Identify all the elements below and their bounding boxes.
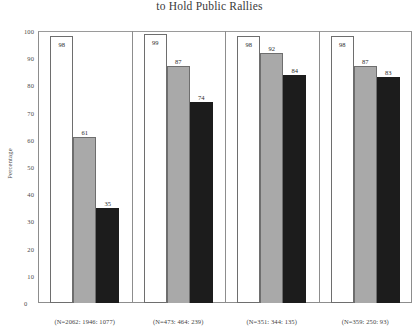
group-label: (N=359: 250: 93) bbox=[319, 318, 413, 325]
y-axis-tick-30: 30 bbox=[4, 218, 34, 225]
y-axis-zero-label: 0 bbox=[24, 300, 27, 307]
y-axis-tick-10: 10 bbox=[4, 272, 34, 279]
y-axis-tick-70: 70 bbox=[4, 109, 34, 116]
bar-value-label: 87 bbox=[355, 58, 376, 65]
y-axis-tick-20: 20 bbox=[4, 245, 34, 252]
bar-white: 99 bbox=[144, 34, 167, 303]
bar-white: 98 bbox=[331, 36, 354, 303]
bar-black: 84 bbox=[283, 75, 306, 303]
bar-group: 998774 bbox=[132, 31, 226, 303]
bar-value-label: 87 bbox=[168, 58, 189, 65]
bar-black: 35 bbox=[96, 208, 119, 303]
bar-value-label: 99 bbox=[145, 39, 166, 46]
y-axis-tick-100: 100 bbox=[4, 28, 34, 35]
y-axis-tick-labels: 100908070605040302010 bbox=[0, 31, 34, 303]
bar-value-label: 98 bbox=[332, 41, 353, 48]
bar-value-label: 98 bbox=[238, 41, 259, 48]
bar-white: 98 bbox=[50, 36, 73, 303]
y-axis-tick-50: 50 bbox=[4, 164, 34, 171]
bar-chart: to Hold Public Rallies Percentage 100908… bbox=[0, 0, 419, 331]
group-label: (N=2062: 1946: 1077) bbox=[38, 318, 132, 325]
bar-white: 98 bbox=[237, 36, 260, 303]
bar-black: 83 bbox=[377, 77, 400, 303]
y-axis-tick-90: 90 bbox=[4, 55, 34, 62]
bar-value-label: 74 bbox=[191, 94, 212, 101]
chart-title: to Hold Public Rallies bbox=[0, 0, 419, 12]
bar-groups-layer: 986135998774989284988783 bbox=[38, 31, 412, 303]
bar-value-label: 83 bbox=[378, 69, 399, 76]
group-label: (N=473: 464: 239) bbox=[132, 318, 226, 325]
bar-gray: 61 bbox=[73, 137, 96, 303]
bar-gray: 87 bbox=[354, 66, 377, 303]
y-axis-tick-40: 40 bbox=[4, 191, 34, 198]
bar-value-label: 84 bbox=[284, 67, 305, 74]
bar-value-label: 61 bbox=[74, 129, 95, 136]
bar-gray: 92 bbox=[260, 53, 283, 303]
bar-group: 988783 bbox=[319, 31, 413, 303]
bar-value-label: 98 bbox=[51, 41, 72, 48]
bar-value-label: 35 bbox=[97, 200, 118, 207]
bar-gray: 87 bbox=[167, 66, 190, 303]
bar-group: 989284 bbox=[225, 31, 319, 303]
y-axis-tick-80: 80 bbox=[4, 82, 34, 89]
group-label: (N=351: 344: 135) bbox=[225, 318, 319, 325]
bar-black: 74 bbox=[190, 102, 213, 303]
bar-group: 986135 bbox=[38, 31, 132, 303]
bar-value-label: 92 bbox=[261, 45, 282, 52]
y-axis-tick-60: 60 bbox=[4, 136, 34, 143]
